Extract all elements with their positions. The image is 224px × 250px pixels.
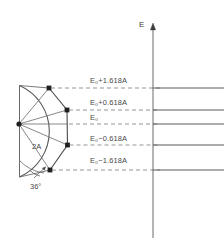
vertex-dot-upper [65,108,70,113]
energy-axis-label: E [139,20,144,29]
center-vertex-dot [16,121,21,126]
vertex-dot-lower [65,143,70,148]
diagram-canvas [0,0,224,250]
radius-line-2 [19,110,67,124]
radius-line-1 [19,88,49,124]
frost-circle-diagram: E E₀+1.618A E₀+0.618A E₀ E₀−0.618A E₀−1.… [0,0,224,250]
vertex-dot-top [47,86,52,91]
energy-level-label-2: E₀+0.618A [90,99,127,107]
angle-arc-outer [19,160,44,173]
energy-level-label-3: E₀ [90,114,98,122]
energy-level-label-1: E₀+1.618A [90,77,127,85]
energy-level-label-4: E₀−0.618A [90,135,127,143]
vertex-dot-bottom [48,168,53,173]
polygon-edges [49,88,68,170]
energy-level-label-5: E₀−1.618A [90,157,127,165]
energy-axis-arrowhead [150,23,155,30]
radius-annotation-label: 2A [32,142,41,151]
angle-annotation-label: 36° [30,182,41,191]
